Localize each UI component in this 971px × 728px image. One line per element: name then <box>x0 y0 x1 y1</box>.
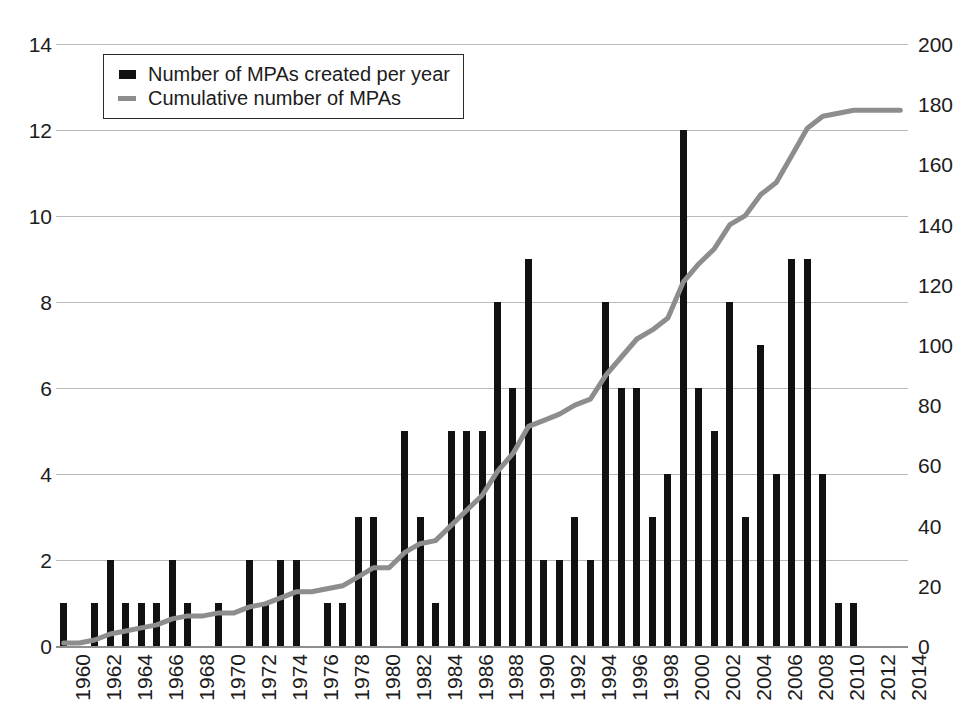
y-axis-left-tick-label: 10 <box>29 206 52 227</box>
x-axis-tick-label: 1990 <box>536 654 557 701</box>
y-axis-right-tick-label: 180 <box>918 94 953 115</box>
x-axis-tick-label: 1974 <box>289 654 310 701</box>
y-axis-left-tick-label: 12 <box>29 120 52 141</box>
line-swatch-icon <box>117 88 137 108</box>
x-axis-tick-label: 1982 <box>413 654 434 701</box>
legend-label-bars: Number of MPAs created per year <box>148 64 450 84</box>
y-axis-right-tick-label: 200 <box>918 34 953 55</box>
mpa-chart: 02468101214 020406080100120140160180200 … <box>0 0 971 728</box>
x-axis-tick-label: 1968 <box>196 654 217 701</box>
y-axis-right-tick-label: 20 <box>918 576 941 597</box>
y-axis-right-tick-label: 160 <box>918 154 953 175</box>
bar-swatch-icon <box>117 64 137 84</box>
x-axis-tick-label: 2002 <box>722 654 743 701</box>
x-axis-tick-label: 1986 <box>475 654 496 701</box>
x-axis-tick-label: 1988 <box>505 654 526 701</box>
x-axis-tick-label: 1992 <box>567 654 588 701</box>
y-axis-right-tick-label: 60 <box>918 455 941 476</box>
y-axis-right-tick-label: 40 <box>918 516 941 537</box>
y-axis-right-tick-label: 100 <box>918 335 953 356</box>
x-axis-tick-label: 2006 <box>784 654 805 701</box>
y-axis-left-tick-label: 0 <box>40 636 52 657</box>
x-axis-tick-label: 1972 <box>258 654 279 701</box>
y-axis-right-tick-label: 140 <box>918 215 953 236</box>
y-axis-left-tick-label: 14 <box>29 34 52 55</box>
y-axis-right-tick-label: 120 <box>918 275 953 296</box>
y-axis-right-tick-label: 80 <box>918 395 941 416</box>
x-axis-line <box>56 646 908 648</box>
x-axis-tick-label: 1984 <box>444 654 465 701</box>
chart-legend: Number of MPAs created per year Cumulati… <box>103 54 464 119</box>
y-axis-left-tick-label: 6 <box>40 378 52 399</box>
x-axis-tick-label: 1964 <box>134 654 155 701</box>
x-axis-tick-label: 1978 <box>351 654 372 701</box>
x-axis-tick-label: 2014 <box>908 654 929 701</box>
x-axis-tick-label: 2012 <box>877 654 898 701</box>
x-axis-tick-label: 1960 <box>72 654 93 701</box>
x-axis-tick-label: 1998 <box>660 654 681 701</box>
plot-area <box>56 44 908 646</box>
cumulative-line-path <box>64 110 901 643</box>
x-axis-tick-label: 2000 <box>691 654 712 701</box>
x-axis-tick-label: 1970 <box>227 654 248 701</box>
x-axis-tick-label: 1966 <box>165 654 186 701</box>
legend-label-line: Cumulative number of MPAs <box>148 88 401 108</box>
x-axis-tick-label: 1996 <box>629 654 650 701</box>
x-axis-tick-label: 2010 <box>846 654 867 701</box>
x-axis-tick-label: 2008 <box>815 654 836 701</box>
cumulative-line-series <box>56 44 908 646</box>
legend-item-line: Cumulative number of MPAs <box>117 86 450 110</box>
x-axis-tick-label: 2004 <box>753 654 774 701</box>
legend-item-bars: Number of MPAs created per year <box>117 62 450 86</box>
y-axis-left-tick-label: 2 <box>40 550 52 571</box>
y-axis-left-tick-label: 8 <box>40 292 52 313</box>
x-axis-tick-label: 1980 <box>382 654 403 701</box>
x-axis-tick-label: 1994 <box>598 654 619 701</box>
x-axis-tick-label: 1976 <box>320 654 341 701</box>
y-axis-left-tick-label: 4 <box>40 464 52 485</box>
x-axis-tick-label: 1962 <box>103 654 124 701</box>
